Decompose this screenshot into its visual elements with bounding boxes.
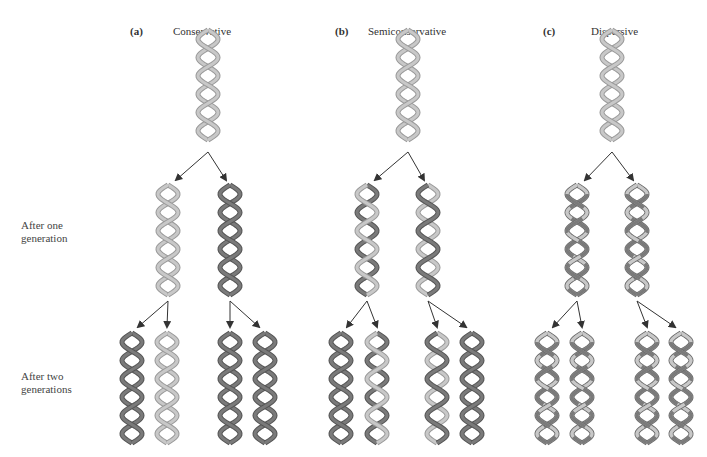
gen1-helix-b-3 — [418, 185, 438, 295]
gen2-helix-a-0 — [122, 333, 142, 443]
gen2-helix-a-1 — [157, 333, 177, 443]
parent-helix-c — [602, 30, 622, 140]
gen1-helix-c-4 — [567, 185, 587, 295]
arrow — [553, 301, 577, 327]
gen2-helix-b-4 — [331, 333, 351, 443]
gen1-helix-a-1 — [220, 185, 240, 295]
replication-diagram — [0, 0, 707, 457]
arrow — [230, 301, 259, 327]
arrow — [167, 301, 168, 327]
arrow — [408, 152, 424, 180]
arrow — [577, 301, 582, 327]
arrow — [138, 301, 168, 327]
gen2-helix-c-8 — [537, 333, 557, 443]
arrows — [138, 152, 675, 327]
gen2-helix-b-5 — [367, 333, 387, 443]
arrow — [176, 152, 208, 180]
gen2-helix-c-9 — [572, 333, 592, 443]
gen1-helix-b-2 — [357, 185, 377, 295]
parent-helix-b — [398, 30, 418, 140]
gen2-helix-a-3 — [255, 333, 275, 443]
arrow — [428, 301, 466, 327]
arrow — [347, 301, 367, 327]
arrow — [208, 152, 226, 180]
helices — [122, 30, 691, 443]
gen2-helix-b-6 — [427, 333, 447, 443]
gen2-helix-c-10 — [637, 333, 657, 443]
gen2-helix-a-2 — [220, 333, 240, 443]
parent-helix-a — [198, 30, 218, 140]
arrow — [585, 152, 612, 180]
arrow — [367, 301, 377, 327]
gen1-helix-a-0 — [158, 185, 178, 295]
arrow — [637, 301, 675, 327]
arrow — [375, 152, 408, 180]
arrow — [428, 301, 437, 327]
arrow — [612, 152, 633, 180]
gen1-helix-c-5 — [627, 185, 647, 295]
gen2-helix-c-11 — [671, 333, 691, 443]
gen2-helix-b-7 — [462, 333, 482, 443]
